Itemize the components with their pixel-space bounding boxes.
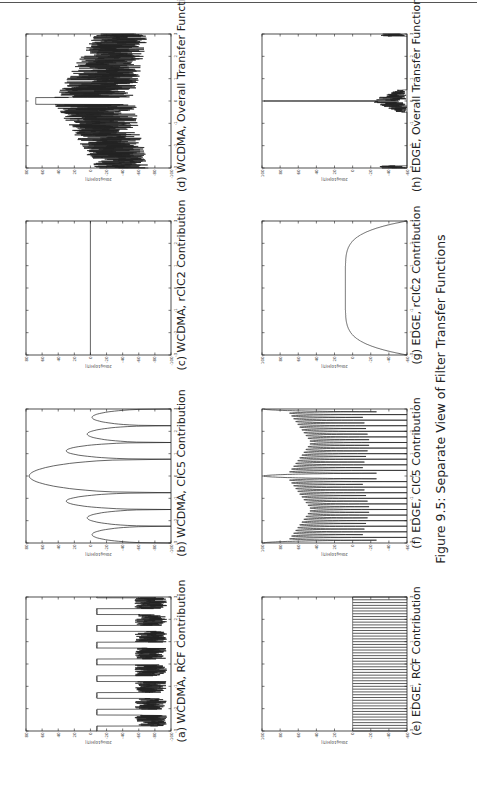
svg-text:60: 60 — [296, 169, 301, 175]
svg-text:-60: -60 — [405, 169, 410, 176]
svg-text:-40: -40 — [120, 169, 125, 176]
svg-text:80: 80 — [24, 169, 29, 175]
svg-text:60: 60 — [40, 544, 45, 550]
svg-text:-60: -60 — [136, 356, 141, 363]
svg-text:-40: -40 — [120, 356, 125, 363]
svg-text:20log10|H(f)|: 20log10|H(f)| — [85, 740, 112, 745]
svg-text:60: 60 — [40, 356, 45, 362]
svg-text:40: 40 — [314, 356, 319, 362]
svg-text:-100: -100 — [169, 544, 174, 554]
plot-e: -3-2-10123f100806040200-20-40-6020log10|… — [258, 567, 428, 755]
subcaption-a: (a) WCDMA, RCF Contribution — [175, 567, 188, 755]
svg-text:60: 60 — [296, 732, 301, 738]
svg-text:40: 40 — [56, 732, 61, 738]
svg-text:0: 0 — [350, 169, 355, 172]
svg-text:20: 20 — [332, 169, 337, 175]
svg-text:20log10|H(f)|: 20log10|H(f)| — [321, 740, 348, 745]
panel-b: -3-2-10123f806040200-20-40-60-80-10020lo… — [22, 379, 192, 567]
svg-text:20log10|H(f)|: 20log10|H(f)| — [85, 364, 112, 369]
subcaption-b: (b) WCDMA, CIC5 Contribution — [175, 379, 188, 567]
svg-text:100: 100 — [260, 732, 265, 740]
svg-text:-60: -60 — [405, 544, 410, 551]
svg-text:-20: -20 — [104, 544, 109, 551]
svg-text:-20: -20 — [368, 732, 373, 739]
panel-f: -3-2-10123f100806040200-20-40-6020log10|… — [258, 379, 428, 567]
subcaption-h: (h) EDGE, Overall Transfer Function — [410, 4, 423, 192]
plot-f: -3-2-10123f100806040200-20-40-6020log10|… — [258, 379, 428, 567]
subcaption-e: (e) EDGE, RCF Contribution — [410, 567, 423, 755]
svg-text:-20: -20 — [368, 169, 373, 176]
svg-text:-60: -60 — [136, 169, 141, 176]
svg-text:80: 80 — [278, 544, 283, 550]
svg-text:80: 80 — [278, 356, 283, 362]
panel-d: -3-2-10123f806040200-20-40-60-80-10020lo… — [22, 4, 192, 192]
svg-text:-20: -20 — [368, 544, 373, 551]
subcaption-d: (d) WCDMA, Overall Transfer Function — [175, 4, 188, 192]
plot-g: -3-2-10123f100806040200-20-40-6020log10|… — [258, 191, 428, 379]
svg-text:-80: -80 — [152, 356, 157, 363]
svg-text:-40: -40 — [120, 732, 125, 739]
svg-text:60: 60 — [296, 356, 301, 362]
svg-text:-60: -60 — [136, 544, 141, 551]
svg-text:40: 40 — [314, 169, 319, 175]
svg-text:80: 80 — [24, 544, 29, 550]
svg-text:20: 20 — [72, 356, 77, 362]
svg-text:20: 20 — [72, 732, 77, 738]
plot-h: -3-2-10123f100806040200-20-40-6020log10|… — [258, 4, 428, 192]
svg-text:-100: -100 — [169, 732, 174, 742]
svg-text:-100: -100 — [169, 169, 174, 179]
svg-text:80: 80 — [24, 732, 29, 738]
svg-text:-20: -20 — [368, 356, 373, 363]
svg-text:-100: -100 — [169, 356, 174, 366]
svg-text:-40: -40 — [386, 732, 391, 739]
panel-c: -3-2-10123f806040200-20-40-60-80-10020lo… — [22, 191, 192, 379]
figure-caption: Figure 9.5: Separate View of Filter Tran… — [433, 0, 448, 798]
svg-text:0: 0 — [350, 544, 355, 547]
svg-text:80: 80 — [278, 732, 283, 738]
svg-text:-60: -60 — [405, 356, 410, 363]
svg-text:20: 20 — [332, 356, 337, 362]
panel-e: -3-2-10123f100806040200-20-40-6020log10|… — [258, 567, 428, 755]
svg-text:-40: -40 — [386, 356, 391, 363]
svg-text:-80: -80 — [152, 169, 157, 176]
svg-text:-80: -80 — [152, 732, 157, 739]
plot-c: -3-2-10123f806040200-20-40-60-80-10020lo… — [22, 191, 192, 379]
svg-text:20: 20 — [72, 544, 77, 550]
svg-text:20log10|H(f)|: 20log10|H(f)| — [321, 177, 348, 182]
panel-g: -3-2-10123f100806040200-20-40-6020log10|… — [258, 191, 428, 379]
svg-text:-40: -40 — [386, 544, 391, 551]
svg-text:40: 40 — [56, 544, 61, 550]
svg-text:0: 0 — [88, 544, 93, 547]
svg-text:-20: -20 — [104, 732, 109, 739]
svg-text:100: 100 — [260, 356, 265, 364]
plot-d: -3-2-10123f806040200-20-40-60-80-10020lo… — [22, 4, 192, 192]
svg-text:-80: -80 — [152, 544, 157, 551]
svg-text:20log10|H(f)|: 20log10|H(f)| — [321, 552, 348, 557]
svg-text:40: 40 — [56, 169, 61, 175]
svg-text:20log10|H(f)|: 20log10|H(f)| — [85, 552, 112, 557]
svg-text:60: 60 — [40, 169, 45, 175]
svg-text:0: 0 — [350, 356, 355, 359]
svg-text:-40: -40 — [120, 544, 125, 551]
svg-text:80: 80 — [278, 169, 283, 175]
svg-text:20log10|H(f)|: 20log10|H(f)| — [85, 177, 112, 182]
plot-b: -3-2-10123f806040200-20-40-60-80-10020lo… — [22, 379, 192, 567]
svg-text:40: 40 — [314, 544, 319, 550]
svg-text:20log10|H(f)|: 20log10|H(f)| — [321, 364, 348, 369]
svg-text:60: 60 — [296, 544, 301, 550]
subcaption-f: (f) EDGE, CIC5 Contribution — [410, 379, 423, 567]
svg-text:0: 0 — [88, 356, 93, 359]
svg-text:80: 80 — [24, 356, 29, 362]
svg-text:0: 0 — [88, 169, 93, 172]
svg-text:0: 0 — [88, 732, 93, 735]
svg-text:-60: -60 — [405, 732, 410, 739]
svg-text:40: 40 — [314, 732, 319, 738]
svg-text:-40: -40 — [386, 169, 391, 176]
plot-a: -3-2-10123f806040200-20-40-60-80-10020lo… — [22, 567, 192, 755]
svg-text:-60: -60 — [136, 732, 141, 739]
panel-h: -3-2-10123f100806040200-20-40-6020log10|… — [258, 4, 428, 192]
svg-text:100: 100 — [260, 544, 265, 552]
svg-text:20: 20 — [332, 544, 337, 550]
svg-text:100: 100 — [260, 169, 265, 177]
svg-text:20: 20 — [332, 732, 337, 738]
